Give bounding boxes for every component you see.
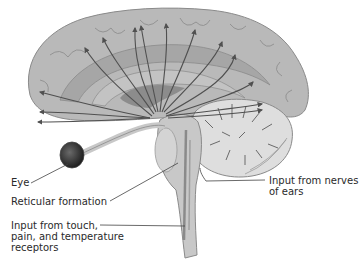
touch-input-label: Input from touch, pain, and temperature … [11,220,124,253]
touch-label-line-1: Input from touch, [11,220,124,231]
ears-label-line-1: Input from nerves [269,175,358,186]
cerebellum [190,99,293,177]
eye-label: Eye [11,177,29,188]
touch-label-line-2: pain, and temperature [11,231,124,242]
brainstem [155,114,202,258]
ears-input-label: Input from nerves of ears [269,175,358,197]
ears-label-line-2: of ears [269,186,358,197]
eye [60,125,165,168]
touch-label-line-3: receptors [11,242,124,253]
reticular-formation-label: Reticular formation [11,196,107,207]
